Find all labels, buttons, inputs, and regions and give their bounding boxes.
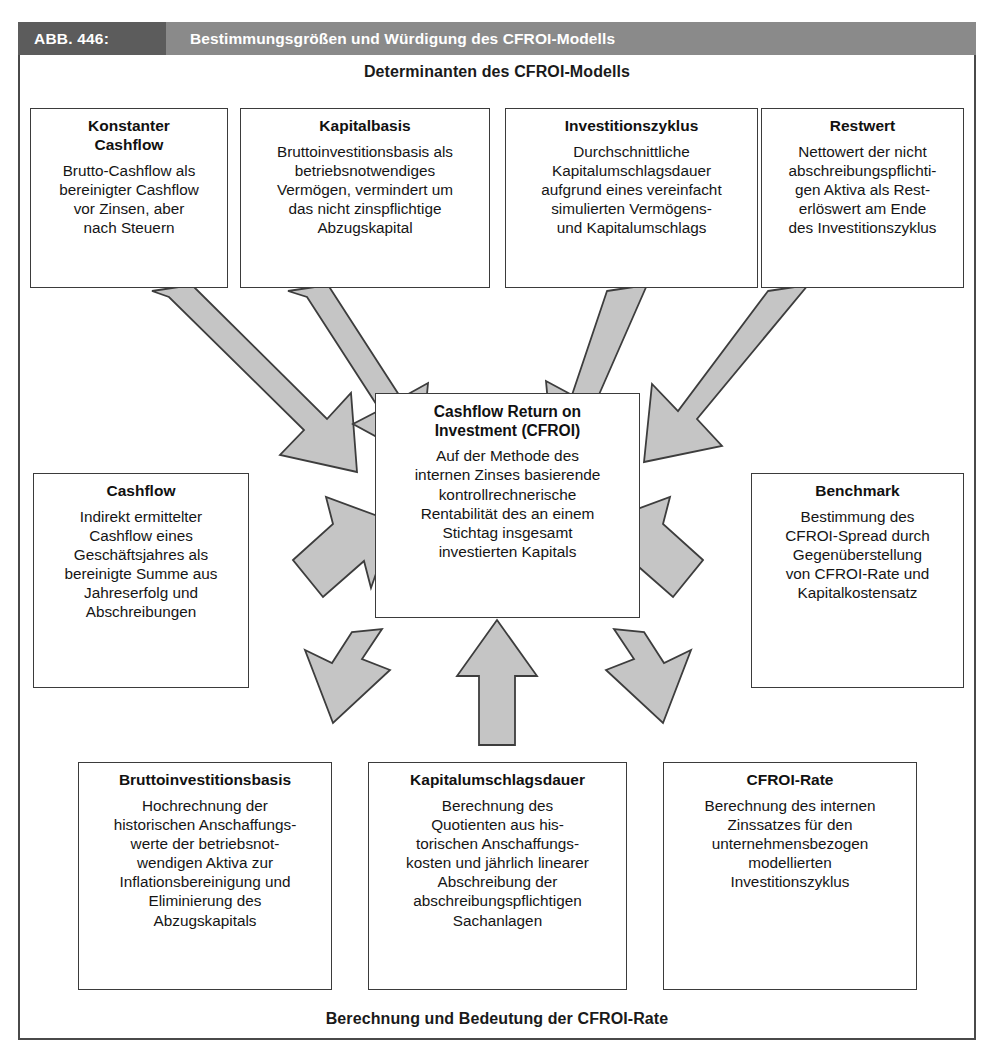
node-title: Investitionszyklus — [565, 117, 699, 136]
node-investitionszyklus[interactable]: Investitionszyklus Durchschnittliche Kap… — [505, 108, 758, 288]
node-title: CFROI-Rate — [747, 771, 834, 790]
node-cashflow[interactable]: Cashflow Indirekt ermittelter Cashflow e… — [33, 473, 249, 688]
node-body: Berechnung des Quotienten aus his- toris… — [406, 796, 589, 930]
node-title: Benchmark — [815, 482, 899, 501]
node-title: Cashflow — [107, 482, 176, 501]
node-body: Auf der Methode des internen Zinses basi… — [415, 446, 601, 562]
node-body: Nettowert der nicht abschreibungspflicht… — [789, 142, 937, 238]
node-body: Bruttoinvestitionsbasis als betriebsnotw… — [277, 142, 453, 238]
node-title: Cashflow Return on Investment (CFROI) — [434, 402, 581, 440]
node-body: Berechnung des internen Zinssatzes für d… — [705, 796, 876, 892]
node-body: Durchschnittliche Kapitalumschlagsdauer … — [541, 142, 721, 238]
node-bruttoinvestitionsbasis[interactable]: Bruttoinvestitionsbasis Hochrechnung der… — [78, 762, 332, 990]
node-title: Konstanter Cashflow — [88, 117, 170, 155]
node-cashflow-return-on-investment[interactable]: Cashflow Return on Investment (CFROI) Au… — [375, 393, 640, 618]
node-title: Bruttoinvestitionsbasis — [119, 771, 291, 790]
figure-page: ABB. 446: Bestimmungsgrößen und Würdigun… — [0, 0, 994, 1061]
node-restwert[interactable]: Restwert Nettowert der nicht abschreibun… — [761, 108, 964, 288]
node-title: Kapitalumschlagsdauer — [410, 771, 585, 790]
node-body: Indirekt ermittelter Cashflow eines Gesc… — [64, 507, 217, 622]
node-kapitalbasis[interactable]: Kapitalbasis Bruttoinvestitionsbasis als… — [240, 108, 490, 288]
node-title: Restwert — [830, 117, 895, 136]
figure-caption-bar: ABB. 446: Bestimmungsgrößen und Würdigun… — [18, 22, 976, 55]
node-kapitalumschlagsdauer[interactable]: Kapitalumschlagsdauer Berechnung des Quo… — [368, 762, 627, 990]
section-heading-top: Determinanten des CFROI-Modells — [0, 63, 994, 81]
figure-title-label: Bestimmungsgrößen und Würdigung des CFRO… — [166, 22, 976, 55]
node-body: Hochrechnung der historischen Anschaffun… — [114, 796, 297, 930]
node-benchmark[interactable]: Benchmark Bestimmung des CFROI-Spread du… — [751, 473, 964, 688]
node-body: Brutto-Cashflow als bereinigter Cashflow… — [59, 161, 198, 237]
figure-number-label: ABB. 446: — [18, 22, 166, 55]
node-title: Kapitalbasis — [319, 117, 410, 136]
node-konstanter-cashflow[interactable]: Konstanter Cashflow Brutto-Cashflow als … — [30, 108, 228, 288]
node-body: Bestimmung des CFROI-Spread durch Gegenü… — [785, 507, 930, 603]
section-heading-bottom: Berechnung und Bedeutung der CFROI-Rate — [0, 1010, 994, 1028]
node-cfroi-rate[interactable]: CFROI-Rate Berechnung des internen Zinss… — [663, 762, 917, 990]
